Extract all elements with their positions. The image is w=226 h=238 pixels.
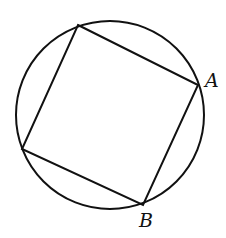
label-a: A — [203, 69, 219, 91]
label-b: B — [138, 209, 153, 231]
diagram-canvas: A B — [0, 0, 226, 238]
circumcircle — [16, 21, 204, 209]
inscribed-square — [22, 25, 198, 205]
